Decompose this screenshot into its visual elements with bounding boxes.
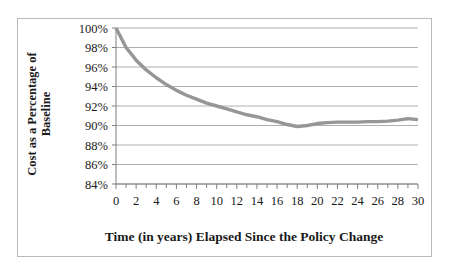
chart-canvas: 100%98%96%94%92%90%88%86%84% 02468101214… [18,19,431,256]
x-tick-label: 20 [311,194,324,208]
y-tick-label: 84% [85,178,108,192]
x-tick-label: 0 [113,194,119,208]
y-axis-title-line2: Baseline [39,91,53,136]
y-tick-label: 94% [85,80,108,94]
x-tick-label: 22 [331,194,344,208]
y-tick-label: 90% [85,119,108,133]
data-series-line [116,28,418,126]
x-tick-label: 16 [271,194,284,208]
axis-titles: Time (in years) Elapsed Since the Policy… [25,51,383,244]
x-tick-label: 4 [153,194,160,208]
y-tick-label: 86% [85,158,108,172]
x-tick-label: 18 [291,194,304,208]
x-tick-label: 14 [251,194,264,208]
y-tick-label: 92% [85,100,108,114]
x-tick-label: 28 [392,194,405,208]
x-tick-label: 30 [412,194,425,208]
y-tick-label: 88% [85,139,108,153]
x-tick-label: 26 [371,194,384,208]
x-tick-label: 10 [210,194,223,208]
y-tick-label: 100% [79,22,108,36]
series-line [116,28,418,126]
y-axis-title-line1: Cost as a Percentage of [25,51,39,175]
x-tick-label: 24 [351,194,364,208]
y-axis-tick-labels: 100%98%96%94%92%90%88%86%84% [79,22,108,192]
gridlines [116,28,418,184]
x-tick-label: 2 [133,194,139,208]
x-tick-label: 8 [193,194,199,208]
y-tick-label: 96% [85,61,108,75]
figure-root: 100%98%96%94%92%90%88%86%84% 02468101214… [0,0,449,277]
x-tick-label: 12 [231,194,244,208]
x-tick-label: 6 [173,194,179,208]
x-axis-title: Time (in years) Elapsed Since the Policy… [105,229,383,244]
y-tick-label: 98% [85,41,108,55]
chart-border: 100%98%96%94%92%90%88%86%84% 02468101214… [17,18,432,257]
x-axis-tick-labels: 024681012141618202224262830 [113,194,424,208]
x-axis-ticks [116,184,418,189]
